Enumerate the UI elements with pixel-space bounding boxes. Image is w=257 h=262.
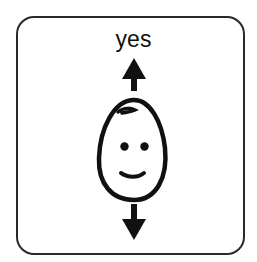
right-eye [140, 142, 148, 150]
smile-mouth [121, 173, 144, 177]
symbol-illustration [0, 0, 257, 262]
arrow-up-icon [122, 58, 146, 91]
left-eye [120, 142, 128, 150]
smiling-face-icon [99, 100, 166, 200]
arrow-down-icon [122, 204, 146, 240]
